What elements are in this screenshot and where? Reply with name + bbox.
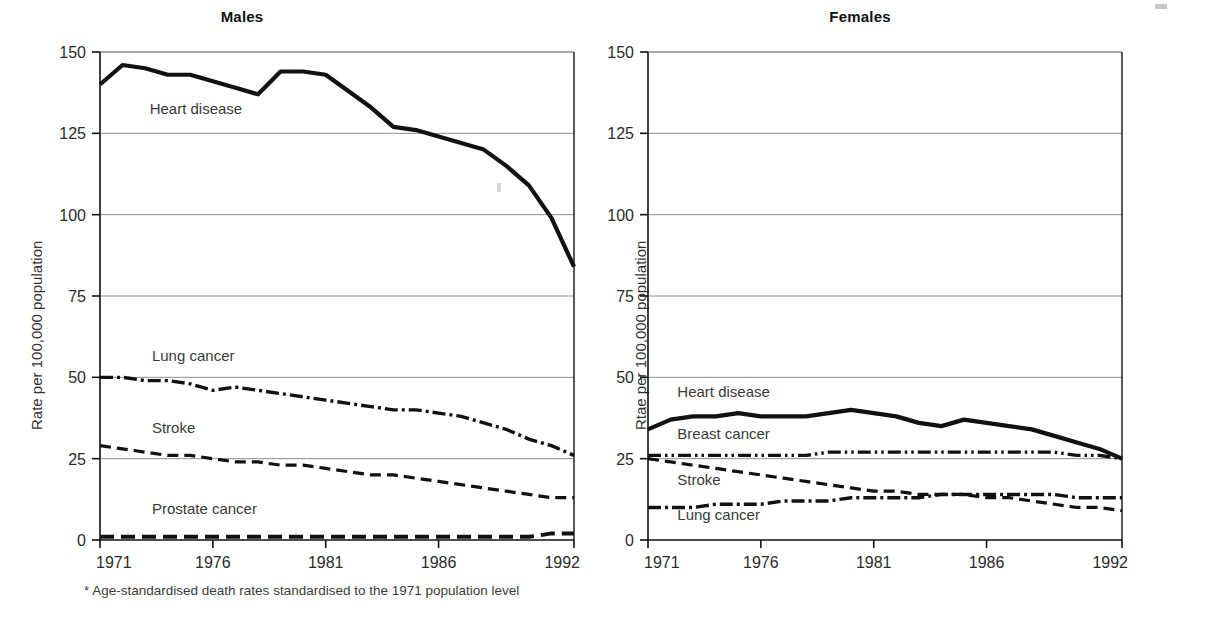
series-label-prostate-cancer: Prostate cancer [152, 500, 257, 517]
footnote: * Age-standardised death rates standardi… [84, 583, 519, 598]
chart-panel-males: Males Rate per 100,000 population 025507… [0, 0, 604, 580]
series-line-lung-cancer [100, 377, 574, 455]
y-tick-label-50: 50 [616, 369, 634, 386]
y-tick-label-0: 0 [77, 532, 86, 549]
series-label-heart-disease: Heart disease [677, 383, 770, 400]
y-tick-label-150: 150 [607, 44, 634, 61]
series-label-lung-cancer: Lung cancer [677, 506, 760, 523]
x-tick-label-1986: 1986 [421, 554, 457, 571]
y-tick-label-150: 150 [59, 44, 86, 61]
y-tick-label-75: 75 [68, 288, 86, 305]
x-tick-label-1971: 1971 [644, 554, 680, 571]
series-label-stroke: Stroke [152, 419, 195, 436]
series-label-breast-cancer: Breast cancer [677, 425, 770, 442]
figure-root: Males Rate per 100,000 population 025507… [0, 0, 1208, 626]
x-tick-label-1981: 1981 [308, 554, 344, 571]
y-tick-label-75: 75 [616, 288, 634, 305]
series-label-heart-disease: Heart disease [150, 100, 243, 117]
y-tick-label-0: 0 [625, 532, 634, 549]
chart-panel-females: Females Rtae per 100,000 population 0255… [604, 0, 1208, 580]
y-tick-label-125: 125 [607, 125, 634, 142]
y-tick-label-50: 50 [68, 369, 86, 386]
y-tick-label-125: 125 [59, 125, 86, 142]
x-tick-label-1976: 1976 [195, 554, 231, 571]
x-tick-label-1986: 1986 [969, 554, 1005, 571]
x-tick-label-1992: 1992 [1092, 554, 1128, 571]
x-tick-label-1981: 1981 [856, 554, 892, 571]
plot-area-males: 025507510012515019711976198119861992Hear… [0, 0, 604, 580]
y-tick-label-100: 100 [607, 207, 634, 224]
y-tick-label-100: 100 [59, 207, 86, 224]
x-tick-label-1992: 1992 [544, 554, 580, 571]
series-line-prostate-cancer [100, 533, 574, 536]
x-tick-label-1971: 1971 [96, 554, 132, 571]
series-line-breast-cancer [648, 452, 1122, 459]
series-label-stroke: Stroke [677, 471, 720, 488]
scan-artifact [497, 183, 501, 192]
series-line-heart-disease [100, 65, 574, 267]
series-line-stroke [100, 446, 574, 498]
y-tick-label-25: 25 [68, 451, 86, 468]
plot-area-females: 025507510012515019711976198119861992Hear… [604, 0, 1208, 580]
x-tick-label-1976: 1976 [743, 554, 779, 571]
y-tick-label-25: 25 [616, 451, 634, 468]
series-label-lung-cancer: Lung cancer [152, 347, 235, 364]
scan-artifact [1155, 4, 1167, 9]
